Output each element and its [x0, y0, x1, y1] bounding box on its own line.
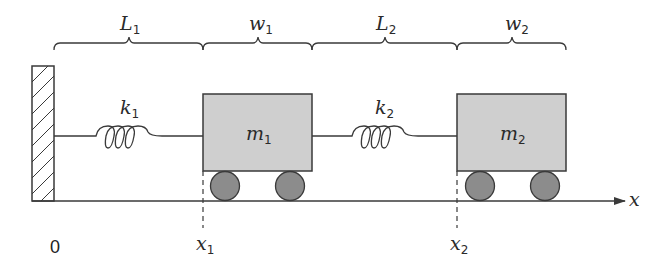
brace-L1 [54, 37, 203, 50]
dimension-braces [54, 37, 566, 50]
label-k2: k2 [375, 96, 394, 121]
mass-m1: m1 [203, 94, 312, 201]
x-axis-label: x [629, 188, 640, 210]
wheel-icon [211, 172, 240, 201]
spring-k1 [54, 126, 203, 148]
mass-m2: m2 [457, 94, 566, 201]
brace-w2 [457, 37, 566, 50]
wheel-icon [531, 172, 560, 201]
label-w2: w2 [505, 12, 529, 37]
label-L1: L1 [119, 12, 140, 37]
label-k1: k1 [120, 96, 139, 121]
origin-label: 0 [50, 237, 60, 257]
wheel-icon [276, 172, 305, 201]
brace-L2 [312, 37, 457, 50]
wheel-icon [466, 172, 495, 201]
label-L2: L2 [375, 12, 396, 37]
spring-k2 [312, 126, 457, 148]
spring-mass-diagram: L1 w1 L2 w2 x k1 k2 m1 [0, 0, 663, 277]
label-x2: x2 [450, 232, 468, 257]
label-w1: w1 [249, 12, 273, 37]
brace-w1 [203, 37, 312, 50]
label-x1: x1 [196, 232, 214, 257]
wall [32, 60, 54, 210]
